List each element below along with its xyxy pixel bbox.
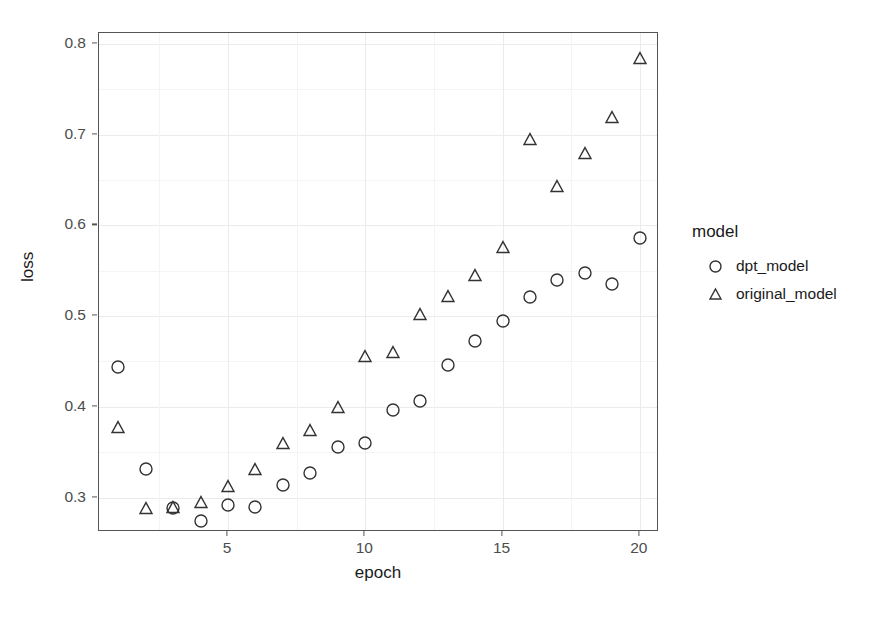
y-tick-label: 0.6 (64, 215, 86, 233)
data-point-dpt_model-16 (523, 290, 537, 304)
x-axis-title: epoch (98, 563, 658, 583)
data-point-dpt_model-4 (194, 514, 208, 528)
data-point-original_model-2 (139, 502, 153, 515)
data-point-original_model-13 (441, 290, 455, 303)
gridline-vertical-minor (571, 33, 572, 530)
data-point-original_model-6 (248, 463, 262, 476)
data-point-original_model-7 (276, 437, 290, 450)
data-point-dpt_model-18 (578, 266, 592, 280)
y-tick-mark (92, 314, 97, 315)
gridline-horizontal-minor (99, 89, 657, 90)
circle-marker-icon (702, 253, 728, 279)
gridline-horizontal (99, 135, 657, 136)
data-point-dpt_model-3 (166, 501, 180, 515)
data-point-dpt_model-7 (276, 478, 290, 492)
legend-entries: dpt_modeloriginal_model (692, 252, 867, 308)
y-tick-mark (92, 133, 97, 134)
legend-entry-dpt_model[interactable]: dpt_model (692, 252, 867, 280)
gridline-vertical (503, 33, 504, 530)
x-tick-label: 20 (630, 539, 647, 557)
data-point-original_model-18 (578, 146, 592, 159)
y-axis-title: loss (18, 252, 38, 282)
x-tick-label: 15 (493, 539, 510, 557)
data-point-original_model-8 (303, 424, 317, 437)
gridline-horizontal (99, 498, 657, 499)
legend-entry-original_model[interactable]: original_model (692, 280, 867, 308)
x-tick-labels: 5101520 (98, 539, 658, 563)
gridline-vertical-minor (297, 33, 298, 530)
y-tick-label: 0.3 (64, 488, 86, 506)
gridline-horizontal-minor (99, 452, 657, 453)
data-point-dpt_model-11 (386, 403, 400, 417)
y-tick-mark (92, 42, 97, 43)
gridline-vertical (228, 33, 229, 530)
legend: model dpt_modeloriginal_model (692, 222, 867, 308)
gridline-horizontal (99, 316, 657, 317)
data-point-original_model-12 (413, 308, 427, 321)
x-tick-mark (501, 531, 502, 536)
data-point-original_model-19 (605, 111, 619, 124)
gridline-vertical-minor (159, 33, 160, 530)
gridline-horizontal (99, 44, 657, 45)
y-tick-label: 0.4 (64, 397, 86, 415)
gridline-vertical (365, 33, 366, 530)
data-point-original_model-11 (386, 346, 400, 359)
x-tick-label: 10 (356, 539, 373, 557)
data-point-original_model-17 (550, 180, 564, 193)
triangle-marker-icon (702, 281, 728, 307)
legend-entry-label: dpt_model (736, 257, 808, 275)
data-point-dpt_model-13 (441, 358, 455, 372)
x-tick-mark (364, 531, 365, 536)
data-point-dpt_model-17 (550, 273, 564, 287)
data-point-dpt_model-6 (248, 500, 262, 514)
x-tick-mark (226, 531, 227, 536)
y-tick-label: 0.8 (64, 34, 86, 52)
data-point-dpt_model-19 (605, 277, 619, 291)
data-point-dpt_model-2 (139, 462, 153, 476)
gridline-vertical-minor (434, 33, 435, 530)
data-point-dpt_model-14 (468, 334, 482, 348)
data-point-original_model-3 (166, 500, 180, 513)
y-tick-labels: 0.30.40.50.60.70.8 (0, 32, 86, 531)
gridline-vertical (640, 33, 641, 530)
gridline-horizontal-minor (99, 361, 657, 362)
x-tick-mark (638, 531, 639, 536)
data-point-original_model-1 (111, 420, 125, 433)
gridline-horizontal (99, 225, 657, 226)
y-tick-mark (92, 224, 97, 225)
y-tick-label: 0.5 (64, 306, 86, 324)
gridline-horizontal-minor (99, 271, 657, 272)
y-tick-mark (92, 405, 97, 406)
y-tick-mark (92, 496, 97, 497)
legend-entry-label: original_model (736, 285, 837, 303)
legend-title: model (692, 222, 867, 242)
y-axis: 0.30.40.50.60.70.8 (0, 32, 98, 531)
data-point-dpt_model-8 (303, 466, 317, 480)
x-tick-label: 5 (223, 539, 232, 557)
gridline-horizontal (99, 407, 657, 408)
gridline-horizontal-minor (99, 180, 657, 181)
scatter-plot-figure: 0.30.40.50.60.70.8 loss 5101520 epoch mo… (0, 0, 873, 617)
x-tick-marks (98, 531, 658, 537)
plot-panel (98, 32, 658, 531)
y-tick-label: 0.7 (64, 125, 86, 143)
